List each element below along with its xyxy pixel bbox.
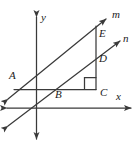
line-m — [8, 19, 106, 99]
label-axis-y: y — [41, 12, 46, 23]
label-point-a: A — [9, 70, 16, 81]
label-point-e: E — [99, 28, 106, 39]
label-line-m: m — [112, 9, 120, 20]
right-angle-mark-c — [85, 78, 97, 90]
diagram-canvas — [0, 0, 137, 148]
label-point-c: C — [100, 87, 107, 98]
label-point-b: B — [55, 89, 62, 100]
label-axis-x: x — [116, 91, 121, 102]
geometry-figure: m y E n D A B C x — [0, 0, 137, 148]
label-line-n: n — [123, 33, 129, 44]
label-point-d: D — [99, 53, 107, 64]
